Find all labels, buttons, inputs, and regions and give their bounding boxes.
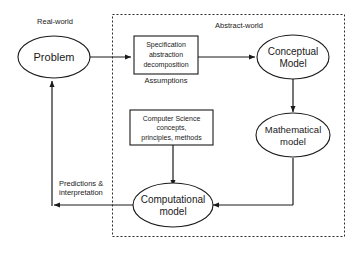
real-world-label: Real-world [37, 17, 73, 26]
node-computer-science[interactable]: Computer Science concepts, principles, m… [130, 110, 213, 145]
specification-line-3: decomposition [143, 61, 188, 69]
assumptions-label: Assumptions [145, 76, 188, 85]
computational-model-line-1: Computational [141, 194, 205, 205]
computer-science-line-3: principles, methods [141, 134, 202, 142]
conceptual-model-line-1: Conceptual [268, 46, 319, 57]
mathematical-model-line-2: model [280, 136, 306, 147]
conceptual-model-line-2: Model [279, 58, 306, 69]
problem-label: Problem [34, 51, 75, 63]
specification-line-2: abstraction [149, 51, 183, 58]
diagram-canvas: Problem Specification abstraction decomp… [0, 0, 357, 253]
computational-model-line-2: model [159, 206, 186, 217]
node-computational-model[interactable]: Computational model [133, 183, 213, 227]
mathematical-model-line-1: Mathematical [265, 124, 322, 135]
abstract-world-label: Abstract-world [215, 21, 263, 30]
predictions-label-line-2: interpretation [59, 188, 103, 197]
diagram-svg: Problem Specification abstraction decomp… [0, 0, 357, 253]
node-mathematical-model[interactable]: Mathematical model [256, 113, 330, 157]
node-conceptual-model[interactable]: Conceptual Model [257, 35, 329, 79]
computer-science-line-2: concepts, [157, 124, 187, 132]
computer-science-line-1: Computer Science [143, 115, 201, 123]
node-specification[interactable]: Specification abstraction decomposition [134, 36, 198, 74]
node-problem[interactable]: Problem [18, 36, 90, 78]
predictions-label-line-1: Predictions & [59, 179, 103, 188]
specification-line-1: Specification [146, 41, 186, 49]
